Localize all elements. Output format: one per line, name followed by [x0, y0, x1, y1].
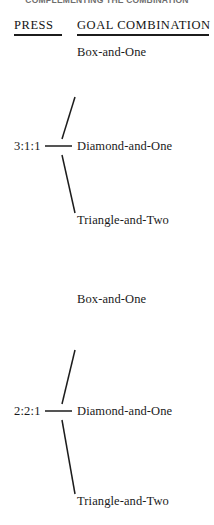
- goal-label-diamond-and-one: Diamond-and-One: [77, 139, 172, 153]
- press-group-3-1-1: 3:1:1 Box-and-One Diamond-and-One Triang…: [0, 45, 214, 235]
- connector-to-box-and-one: [62, 97, 75, 139]
- column-header-goal-combination: GOAL COMBINATION: [77, 18, 211, 32]
- goal-label-box-and-one: Box-and-One: [77, 45, 146, 59]
- goal-label-diamond-and-one: Diamond-and-One: [77, 404, 172, 418]
- header-rule-goal: [77, 34, 209, 36]
- goal-label-triangle-and-two: Triangle-and-Two: [77, 213, 169, 227]
- running-head-text: COMPLEMENTING THE COMBINATION: [0, 0, 214, 5]
- press-group-2-2-1: 2:2:1 Box-and-One Diamond-and-One Triang…: [0, 292, 214, 517]
- press-label-2-2-1: 2:2:1: [14, 404, 41, 418]
- press-label-3-1-1: 3:1:1: [14, 139, 41, 153]
- goal-label-triangle-and-two: Triangle-and-Two: [77, 494, 169, 508]
- connector-to-triangle-and-two: [62, 155, 75, 213]
- connector-to-box-and-one: [62, 350, 75, 404]
- header-rule-press: [14, 34, 62, 36]
- connector-to-triangle-and-two: [62, 420, 75, 494]
- goal-label-box-and-one: Box-and-One: [77, 292, 146, 306]
- document-page: COMPLEMENTING THE COMBINATION PRESS GOAL…: [0, 0, 214, 525]
- column-header-press: PRESS: [14, 18, 54, 32]
- running-head: COMPLEMENTING THE COMBINATION: [0, 0, 214, 5]
